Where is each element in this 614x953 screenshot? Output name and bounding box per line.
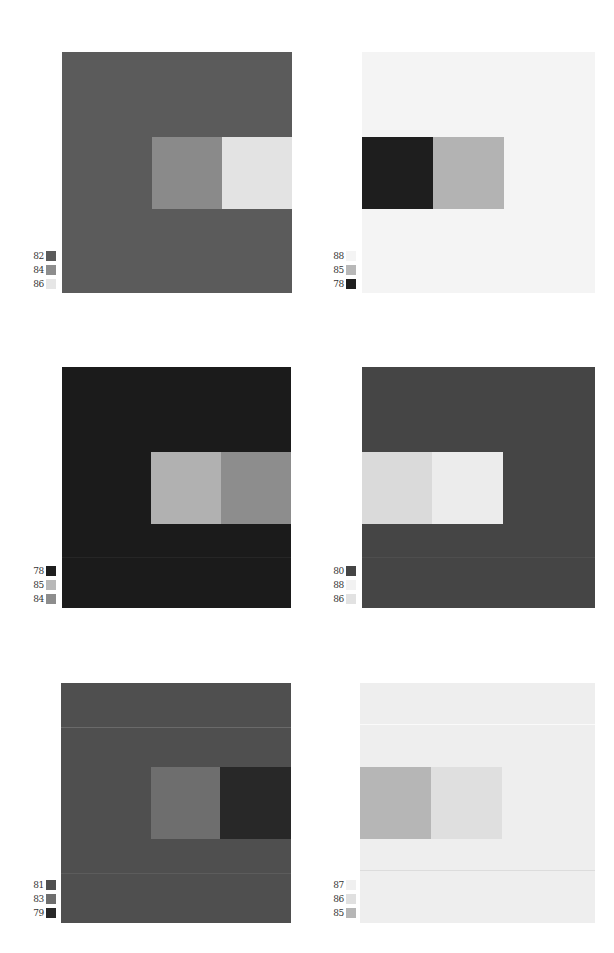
- legend-item: 78: [33, 566, 56, 576]
- color-swatch: [346, 251, 356, 261]
- legend-item: 81: [33, 880, 56, 890]
- color-legend: 828486: [16, 251, 56, 291]
- color-number: 88: [333, 580, 344, 590]
- legend-item: 87: [333, 880, 356, 890]
- legend-item: 85: [33, 580, 56, 590]
- legend-item: 85: [333, 908, 356, 918]
- color-swatch: [46, 580, 56, 590]
- legend-item: 84: [33, 594, 56, 604]
- legend-item: 82: [33, 251, 56, 261]
- inner-square-2: [221, 452, 291, 524]
- color-swatch: [46, 894, 56, 904]
- inner-square-2: [431, 767, 502, 839]
- color-swatch: [46, 566, 56, 576]
- color-legend: 878685: [316, 880, 356, 920]
- inner-square-2: [432, 452, 503, 524]
- color-swatch: [346, 580, 356, 590]
- color-number: 79: [33, 908, 44, 918]
- color-number: 78: [33, 566, 44, 576]
- color-number: 87: [333, 880, 344, 890]
- color-swatch: [46, 594, 56, 604]
- legend-item: 85: [333, 265, 356, 275]
- inner-square-1: [151, 767, 220, 839]
- inner-square-1: [362, 137, 433, 209]
- color-swatch: [46, 265, 56, 275]
- color-number: 85: [333, 265, 344, 275]
- color-number: 86: [33, 279, 44, 289]
- color-swatch: [46, 880, 56, 890]
- color-number: 84: [33, 594, 44, 604]
- plate-divider-line: [61, 873, 291, 874]
- color-swatch: [346, 265, 356, 275]
- inner-square-1: [362, 452, 432, 524]
- color-swatch: [346, 594, 356, 604]
- legend-item: 88: [333, 580, 356, 590]
- legend-item: 86: [33, 279, 56, 289]
- color-swatch: [46, 251, 56, 261]
- inner-square-2: [220, 767, 291, 839]
- color-legend: 788584: [16, 566, 56, 606]
- inner-square-1: [360, 767, 431, 839]
- color-legend: 888578: [316, 251, 356, 291]
- color-legend: 808886: [316, 566, 356, 606]
- color-swatch: [346, 908, 356, 918]
- plate-divider-line: [360, 724, 595, 725]
- color-swatch: [46, 279, 56, 289]
- inner-square-2: [222, 137, 292, 209]
- legend-item: 79: [33, 908, 56, 918]
- legend-item: 80: [333, 566, 356, 576]
- color-number: 78: [333, 279, 344, 289]
- inner-square-2: [433, 137, 504, 209]
- color-swatch: [346, 566, 356, 576]
- legend-item: 88: [333, 251, 356, 261]
- legend-item: 78: [333, 279, 356, 289]
- plate-divider-line: [61, 727, 291, 728]
- inner-square-1: [151, 452, 221, 524]
- plate-divider-line: [62, 557, 291, 558]
- color-number: 88: [333, 251, 344, 261]
- color-number: 84: [33, 265, 44, 275]
- legend-item: 83: [33, 894, 56, 904]
- color-number: 82: [33, 251, 44, 261]
- legend-item: 84: [33, 265, 56, 275]
- color-number: 81: [33, 880, 44, 890]
- legend-item: 86: [333, 894, 356, 904]
- color-legend: 818379: [16, 880, 56, 920]
- color-number: 83: [33, 894, 44, 904]
- color-swatch: [346, 279, 356, 289]
- color-swatch: [346, 880, 356, 890]
- color-number: 85: [33, 580, 44, 590]
- legend-item: 86: [333, 594, 356, 604]
- inner-square-1: [152, 137, 222, 209]
- color-number: 86: [333, 894, 344, 904]
- color-number: 86: [333, 594, 344, 604]
- plate-divider-line: [360, 870, 595, 871]
- color-swatch: [346, 894, 356, 904]
- plate-divider-line: [362, 557, 595, 558]
- color-number: 85: [333, 908, 344, 918]
- color-number: 80: [333, 566, 344, 576]
- color-swatch: [46, 908, 56, 918]
